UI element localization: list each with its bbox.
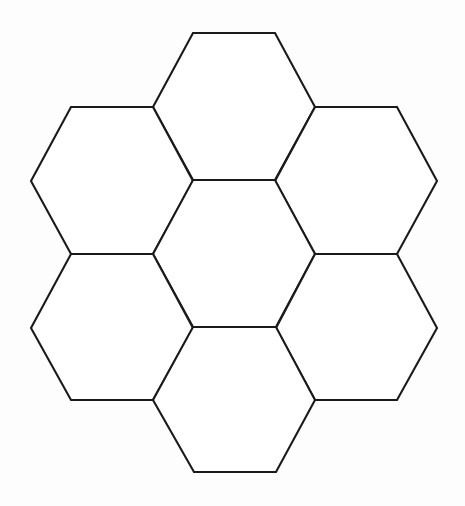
figure-canvas: Hexagon Honeycomb Figure Black outline l… bbox=[0, 0, 465, 506]
honeycomb-diagram bbox=[0, 0, 465, 506]
